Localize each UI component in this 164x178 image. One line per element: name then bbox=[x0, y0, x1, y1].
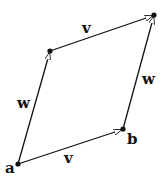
point-top-right bbox=[151, 12, 156, 17]
point-a bbox=[15, 161, 20, 166]
label-v-top: v bbox=[81, 19, 92, 37]
point-b bbox=[120, 126, 125, 131]
edge-v-top bbox=[50, 16, 152, 51]
point-top-left bbox=[47, 48, 52, 53]
label-v-bottom: v bbox=[63, 149, 74, 167]
parallelogram-diagram: a b v v w w bbox=[0, 0, 164, 178]
label-a: a bbox=[5, 159, 15, 177]
label-b: b bbox=[127, 130, 138, 148]
label-w-right: w bbox=[141, 70, 156, 88]
label-w-left: w bbox=[16, 94, 31, 112]
